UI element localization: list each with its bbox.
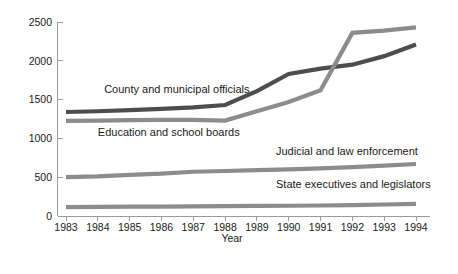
y-axis: 05001000150020002500 [29,16,63,222]
x-tick-label: 1984 [86,221,110,233]
line-chart: 05001000150020002500 1983198419851986198… [0,0,458,274]
series-label-3: State executives and legislators [276,178,431,190]
x-tick-label: 1987 [182,221,206,233]
y-tick-label: 500 [34,171,52,183]
series-label-1: Education and school boards [98,126,240,138]
y-tick-label: 1500 [29,93,53,105]
series-line-3 [66,204,416,207]
series-line-2 [66,164,416,177]
x-tick-label: 1990 [277,221,301,233]
x-tick-label: 1985 [118,221,142,233]
series-label-2: Judicial and law enforcement [276,145,418,157]
x-tick-label: 1989 [245,221,269,233]
y-tick-label: 2000 [29,55,53,67]
x-tick-label: 1994 [404,221,428,233]
x-axis-title: Year [221,232,243,244]
y-tick-label: 1000 [29,132,53,144]
x-tick-label: 1992 [341,221,365,233]
series-line-0 [66,45,416,113]
x-tick-label: 1991 [309,221,333,233]
y-tick-label: 0 [46,210,52,222]
x-tick-label: 1993 [373,221,397,233]
series-label-0: County and municipal officials [104,83,250,95]
x-tick-label: 1986 [150,221,174,233]
x-tick-group: 1983198419851986198719881989199019911992… [54,217,428,234]
x-tick-label: 1983 [54,221,78,233]
y-tick-label: 2500 [29,16,53,28]
series-line-1 [66,27,416,121]
chart-svg: 05001000150020002500 1983198419851986198… [0,0,458,274]
x-axis: 1983198419851986198719881989199019911992… [54,217,430,234]
